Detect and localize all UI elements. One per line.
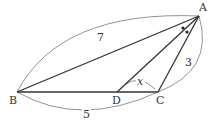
segment-ad (117, 16, 199, 92)
segment-ab (17, 16, 199, 92)
angle-mark-dot-2 (185, 30, 188, 33)
label-c: C (156, 94, 164, 107)
label-b: B (9, 94, 17, 107)
angle-x-label: x (137, 75, 144, 88)
geometry-diagram: A B D C 7 3 5 x (0, 0, 217, 123)
segment-ac (158, 16, 199, 92)
length-bc: 5 (83, 108, 90, 121)
length-ac: 3 (185, 56, 192, 69)
angle-mark-dot-1 (181, 26, 184, 29)
length-ab: 7 (97, 31, 104, 44)
label-a: A (198, 1, 208, 14)
label-d: D (112, 94, 121, 107)
